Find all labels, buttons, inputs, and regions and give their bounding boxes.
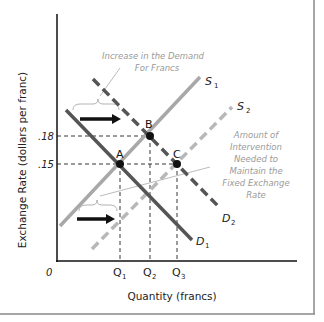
demand-shift-arrow [80,114,121,124]
demand-increase-annotation: Increase in the Demand For Francs [102,51,205,73]
svg-text:Q: Q [143,266,152,279]
svg-text:Intervention: Intervention [230,142,282,152]
svg-text:For Francs: For Francs [135,63,180,73]
supply-shift-arrow [77,214,115,224]
svg-text:Rate: Rate [246,190,266,200]
svg-text:Fixed Exchange: Fixed Exchange [222,178,289,188]
svg-text:Increase in the Demand: Increase in the Demand [102,51,205,61]
demand-note-pointer [100,68,120,96]
x-tick-q3: Q 3 [172,266,185,281]
point-c-marker [173,160,181,168]
s2-label: S 2 [237,100,250,115]
svg-text:2: 2 [246,107,250,115]
point-b-label: B [145,118,153,131]
y-axis-title: Exchange Rate (dollars per franc) [16,72,28,248]
svg-text:1: 1 [214,82,218,90]
x-tick-q1: Q 1 [113,266,126,281]
svg-text:Amount of: Amount of [233,130,280,140]
origin-label: 0 [46,267,52,278]
supply-curve-s2 [92,107,232,249]
svg-text:D: D [196,235,204,248]
svg-text:1: 1 [205,242,209,250]
svg-text:D: D [222,212,230,225]
svg-text:S: S [237,100,244,113]
svg-text:Q: Q [172,266,181,279]
intervention-annotation: Amount of Intervention Needed to Maintai… [222,130,289,200]
point-a-marker [116,160,124,168]
point-b-marker [146,132,154,140]
svg-text:1: 1 [122,273,126,281]
svg-text:2: 2 [231,219,235,227]
y-tick-18: .18 [38,131,54,142]
point-c-label: C [173,148,181,161]
y-tick-15: .15 [38,159,54,170]
x-axis-title: Quantity (francs) [127,290,216,302]
svg-text:Q: Q [113,266,122,279]
svg-text:Needed to: Needed to [234,154,278,164]
exchange-rate-chart: A B C .18 .15 0 Q 1 Q 2 Q 3 Quantity (fr… [0,0,324,322]
svg-text:S: S [205,75,212,88]
d2-label: D 2 [222,212,235,227]
d1-label: D 1 [196,235,209,250]
svg-text:Maintain the: Maintain the [229,166,282,176]
s1-label: S 1 [205,75,218,90]
svg-text:2: 2 [152,273,156,281]
x-tick-q2: Q 2 [143,266,156,281]
svg-text:3: 3 [181,273,185,281]
demand-curve-d2 [93,79,220,208]
point-a-label: A [116,148,124,161]
